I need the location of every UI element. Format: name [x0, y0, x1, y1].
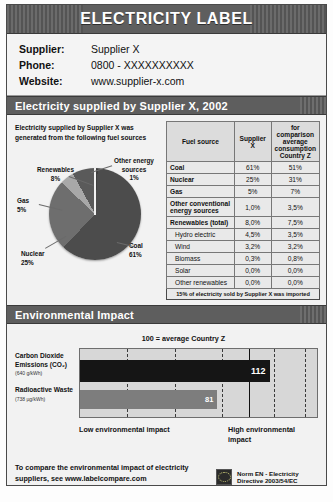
impact-label-radioactive: Radioactive Waste (738 µg/kWh): [15, 386, 79, 420]
cell-fuel-name: Wind: [167, 241, 235, 253]
cell-supplier-value: 8,0%: [234, 217, 271, 229]
cell-fuel-name: Hydro electric: [167, 229, 235, 241]
table-row: Hydro electric 4,5% 3,5%: [167, 229, 320, 241]
gridline: [274, 349, 275, 417]
environment-body: 100 = average Country Z Carbon Dioxide E…: [7, 324, 326, 453]
axis-label-low: Low environmental impact: [79, 425, 228, 445]
table-row: Other renewables 0,0% 0,0%: [167, 277, 320, 289]
cell-supplier-value: 0,0%: [234, 277, 271, 289]
bar-co2: 112: [80, 360, 270, 382]
table-row: Wind 3,2% 3,2%: [167, 241, 320, 253]
norm-badge: Norm EN - Electricity Directive 2003/54/…: [216, 469, 316, 485]
th-fuel-source: Fuel source: [167, 122, 235, 162]
page-title: ELECTRICITY LABEL: [80, 10, 253, 28]
impact-title-radioactive: Radioactive Waste: [15, 386, 79, 395]
phone-label: Phone:: [19, 59, 91, 71]
info-row-supplier: Supplier: Supplier X: [7, 41, 326, 57]
pie-label-other: Other energy sources 1%: [105, 157, 163, 183]
cell-average-value: 7%: [271, 186, 319, 198]
impact-label-co2: Carbon Dioxide Emissions (CO₂) (640 g/kW…: [15, 352, 79, 386]
cell-supplier-value: 3,2%: [234, 241, 271, 253]
section-bar-environment: Environmental Impact: [7, 305, 326, 324]
cell-fuel-name: Renewables (total): [167, 217, 235, 229]
section-bar-supply: Electricity supplied by Supplier X, 2002: [7, 96, 326, 115]
table-row: Coal 61% 51%: [167, 162, 320, 174]
bar-value-radioactive: 81: [205, 395, 217, 404]
scale-note: 100 = average Country Z: [49, 330, 318, 348]
pie-slice-separator-decor: [94, 168, 96, 215]
impact-chart-labels: Carbon Dioxide Emissions (CO₂) (640 g/kW…: [15, 348, 79, 420]
pie-label-nuclear: Nuclear 25%: [21, 250, 44, 267]
axis-label-high: High environmental impact: [228, 425, 318, 445]
fuel-mix-pie-chart: Renewables 8% Other energy sources 1% Ga…: [13, 142, 163, 274]
cell-average-value: 0,0%: [271, 265, 319, 277]
cell-fuel-name: Gas: [167, 186, 235, 198]
cell-supplier-value: 25%: [234, 174, 271, 186]
cell-fuel-name: Other renewables: [167, 277, 235, 289]
cell-average-value: 7,5%: [271, 217, 319, 229]
bar-value-co2: 112: [251, 366, 270, 376]
phone-value: 0800 - XXXXXXXXXX: [91, 59, 194, 71]
website-value[interactable]: www.supplier-x.com: [91, 75, 184, 87]
cell-supplier-value: 4,5%: [234, 229, 271, 241]
eu-stars-decor: [218, 472, 231, 482]
table-footnote: 15% of electricity sold by Supplier X wa…: [166, 289, 320, 300]
cell-average-value: 51%: [271, 162, 319, 174]
th-average-main: average consumption Country Z: [275, 138, 316, 159]
th-supplier: Supplier X: [234, 122, 271, 162]
section-title-environment: Environmental Impact: [7, 309, 134, 321]
table-row: Nuclear 25% 31%: [167, 174, 320, 186]
header-hatch-left-decor: [7, 5, 83, 33]
cell-fuel-name: Coal: [167, 162, 235, 174]
section-hatch-decor: [300, 97, 326, 114]
impact-title-co2: Carbon Dioxide Emissions (CO₂): [15, 352, 79, 369]
table-row: Other conventional energy sources 1,0% 3…: [167, 198, 320, 217]
gridline: [305, 349, 306, 417]
cell-supplier-value: 0,0%: [234, 265, 271, 277]
bar-radioactive: 81: [80, 390, 217, 409]
table-row: Solar 0,0% 0,0%: [167, 265, 320, 277]
th-average-small: for comparison: [277, 124, 314, 138]
cell-average-value: 3,2%: [271, 241, 319, 253]
cell-average-value: 3,5%: [271, 198, 319, 217]
table-row: Gas 5% 7%: [167, 186, 320, 198]
section-title-supply: Electricity supplied by Supplier X, 2002: [7, 100, 228, 112]
impact-chart: Carbon Dioxide Emissions (CO₂) (640 g/kW…: [15, 348, 318, 420]
impact-unit-radioactive: (738 µg/kWh): [15, 396, 79, 402]
cell-supplier-value: 1,0%: [234, 198, 271, 217]
impact-axis-annotations: Low environmental impact High environmen…: [15, 425, 318, 445]
screenshot-root: ELECTRICITY LABEL Supplier: Supplier X P…: [0, 0, 333, 502]
pie-column: Electricity supplied by Supplier X was g…: [13, 121, 163, 300]
table-row: Renewables (total) 8,0% 7,5%: [167, 217, 320, 229]
supply-body: Electricity supplied by Supplier X was g…: [7, 115, 326, 305]
section-hatch-decor: [300, 306, 326, 323]
electricity-label-card: ELECTRICITY LABEL Supplier: Supplier X P…: [6, 4, 327, 486]
cell-average-value: 3,5%: [271, 229, 319, 241]
supplier-info: Supplier: Supplier X Phone: 0800 - XXXXX…: [7, 34, 326, 96]
fuel-source-table: Fuel source Supplier X for comparison av…: [166, 121, 320, 289]
supplier-value: Supplier X: [91, 43, 139, 55]
cell-fuel-name: Nuclear: [167, 174, 235, 186]
info-row-website: Website: www.supplier-x.com: [7, 73, 326, 89]
cell-average-value: 0,0%: [271, 277, 319, 289]
impact-chart-plot: 112 81: [79, 348, 318, 418]
cell-average-value: 31%: [271, 174, 319, 186]
fuel-table-body: Coal 61% 51% Nuclear 25% 31% Gas 5%: [167, 162, 320, 289]
cell-supplier-value: 61%: [234, 162, 271, 174]
pie-label-renewables: Renewables 8%: [37, 166, 74, 183]
label-header: ELECTRICITY LABEL: [7, 5, 326, 34]
norm-text: Norm EN - Electricity Directive 2003/54/…: [237, 470, 316, 484]
header-hatch-right-decor: [250, 5, 326, 33]
table-row: Biomass 0,3% 0,8%: [167, 253, 320, 265]
table-header-row: Fuel source Supplier X for comparison av…: [167, 122, 320, 162]
supplier-label: Supplier:: [19, 43, 91, 55]
cell-supplier-value: 0,3%: [234, 253, 271, 265]
pie-label-gas: Gas 5%: [17, 197, 29, 214]
website-label: Website:: [19, 75, 91, 87]
eu-flag-icon: [216, 469, 232, 485]
th-average: for comparison average consumption Count…: [271, 122, 319, 162]
pie-caption: Electricity supplied by Supplier X was g…: [13, 121, 163, 142]
info-row-phone: Phone: 0800 - XXXXXXXXXX: [7, 57, 326, 73]
label-footer: To compare the environmental impact of e…: [7, 453, 326, 485]
cell-average-value: 0,8%: [271, 253, 319, 265]
